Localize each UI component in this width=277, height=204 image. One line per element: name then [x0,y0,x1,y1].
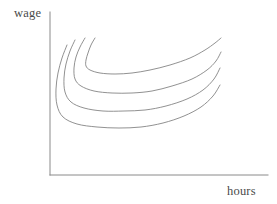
plot-area [0,0,277,204]
indifference-curve-4 [56,45,220,128]
indifference-curve-2 [74,38,221,93]
indifference-curve-figure: wage hours [0,0,277,204]
y-axis-label: wage [14,7,41,20]
indifference-curves-group [56,38,221,128]
indifference-curve-3 [64,40,220,111]
x-axis-label: hours [227,185,256,198]
indifference-curve-1 [86,38,221,74]
